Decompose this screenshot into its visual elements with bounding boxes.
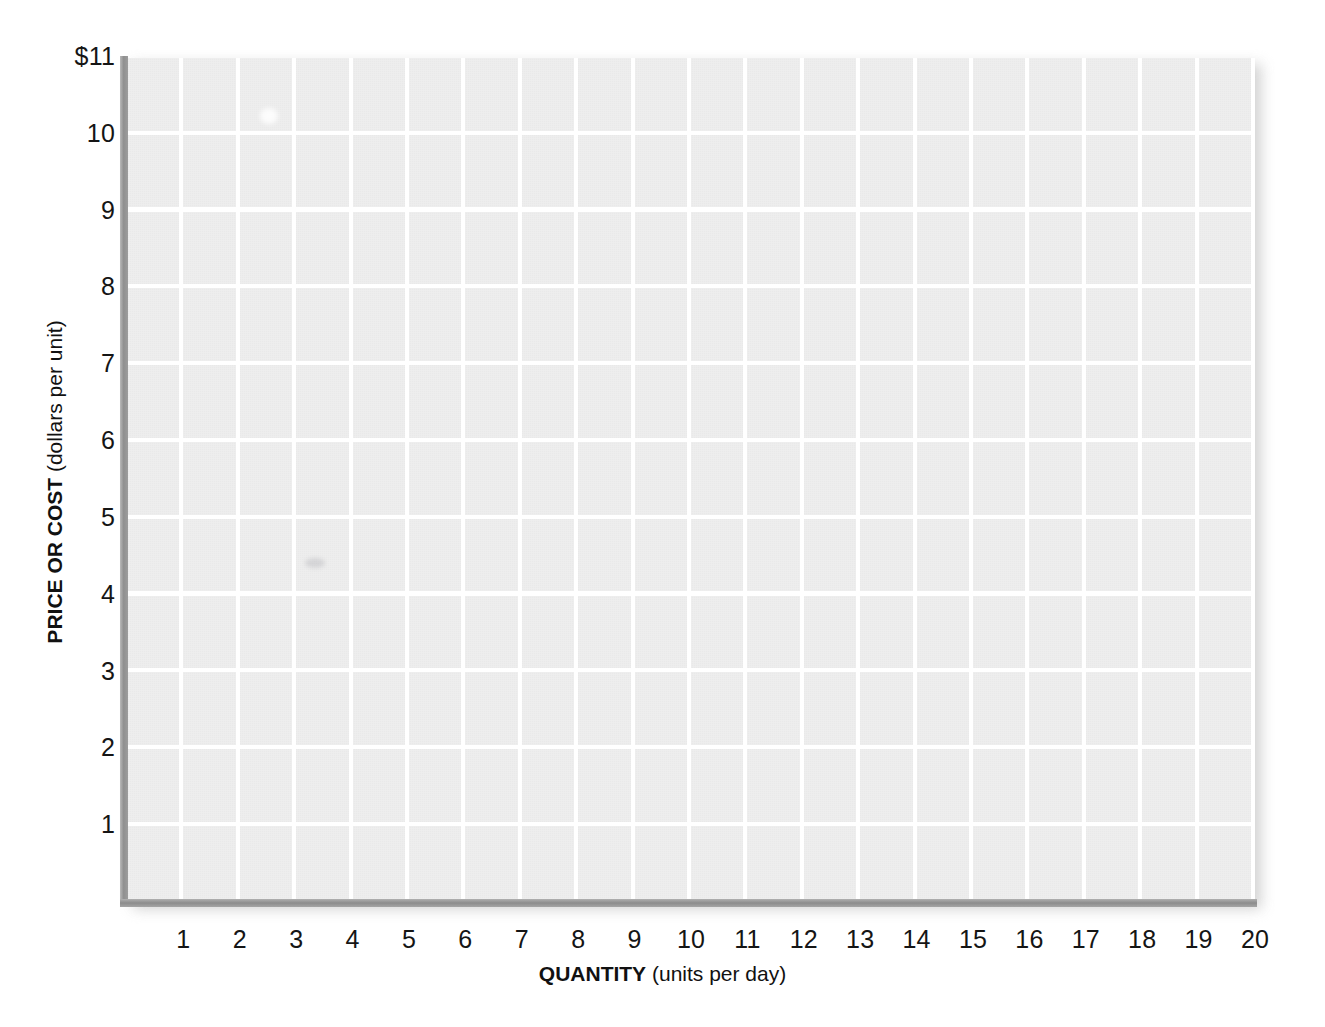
y-axis-title-unit: (dollars per unit) bbox=[43, 320, 66, 478]
x-axis-title-unit: (units per day) bbox=[646, 962, 786, 985]
vertical-gridlines bbox=[127, 58, 1255, 903]
x-tick-label: 3 bbox=[266, 925, 326, 954]
y-axis-bar bbox=[120, 56, 128, 907]
x-tick-label: 20 bbox=[1225, 925, 1285, 954]
x-tick-label: 18 bbox=[1112, 925, 1172, 954]
x-tick-label: 14 bbox=[887, 925, 947, 954]
x-tick-label: 15 bbox=[943, 925, 1003, 954]
plot-area[interactable] bbox=[127, 58, 1255, 903]
x-tick-label: 1 bbox=[153, 925, 213, 954]
scan-artifact-highlight bbox=[260, 108, 278, 124]
horizontal-gridlines bbox=[127, 58, 1255, 903]
x-tick-label: 17 bbox=[1056, 925, 1116, 954]
x-tick-label: 19 bbox=[1169, 925, 1229, 954]
y-axis-title-wrapper: PRICE OR COST (dollars per unit) bbox=[0, 0, 60, 960]
x-tick-label: 13 bbox=[830, 925, 890, 954]
x-tick-label: 6 bbox=[435, 925, 495, 954]
x-tick-label: 2 bbox=[210, 925, 270, 954]
x-tick-label: 7 bbox=[492, 925, 552, 954]
y-axis-title-bold: PRICE OR COST bbox=[43, 478, 66, 644]
x-axis-bar bbox=[120, 899, 1257, 907]
x-axis-title-bold: QUANTITY bbox=[539, 962, 646, 985]
economics-grid-figure: $1110987654321 1234567891011121314151617… bbox=[0, 0, 1325, 1027]
x-tick-label: 4 bbox=[323, 925, 383, 954]
x-tick-label: 12 bbox=[774, 925, 834, 954]
x-tick-label: 8 bbox=[548, 925, 608, 954]
y-axis-title: PRICE OR COST (dollars per unit) bbox=[43, 32, 67, 932]
x-tick-label: 5 bbox=[379, 925, 439, 954]
x-tick-label: 11 bbox=[717, 925, 777, 954]
x-tick-label: 10 bbox=[661, 925, 721, 954]
x-tick-label: 9 bbox=[605, 925, 665, 954]
x-axis-title: QUANTITY (units per day) bbox=[0, 962, 1325, 986]
paper-texture bbox=[127, 58, 1255, 903]
plot-area-wrapper bbox=[127, 58, 1255, 903]
x-tick-label: 16 bbox=[999, 925, 1059, 954]
scan-artifact-smudge bbox=[305, 558, 325, 568]
